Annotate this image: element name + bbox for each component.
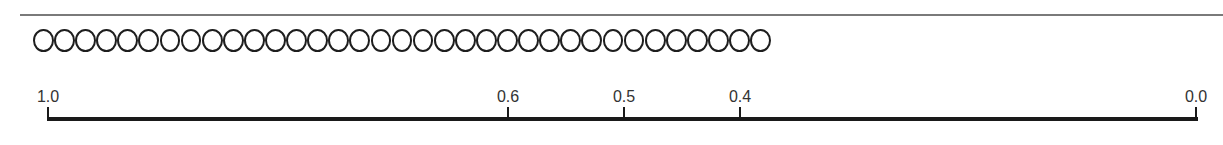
circle-glyph: [729, 29, 750, 52]
circle-glyph: [96, 29, 117, 52]
circle-glyph: [434, 29, 455, 52]
circle-glyph: [581, 29, 602, 52]
circle-glyph: [286, 29, 307, 52]
circle-glyph: [708, 29, 729, 52]
circle-glyph: [560, 29, 581, 52]
circle-glyph: [392, 29, 413, 52]
circle-glyph: [181, 29, 202, 52]
circle-glyph: [624, 29, 645, 52]
tick-mark-1-0: [47, 107, 49, 119]
circle-row: [33, 29, 771, 57]
circle-glyph: [603, 29, 624, 52]
circle-glyph: [750, 29, 771, 52]
circle-glyph: [518, 29, 539, 52]
circle-glyph: [223, 29, 244, 52]
circle-glyph: [497, 29, 518, 52]
circle-glyph: [476, 29, 497, 52]
tick-mark-0-4: [739, 107, 741, 119]
circle-glyph: [455, 29, 476, 52]
circle-glyph: [202, 29, 223, 52]
tick-mark-0-6: [507, 107, 509, 119]
circle-glyph: [413, 29, 434, 52]
circle-glyph: [54, 29, 75, 52]
tick-mark-0-5: [623, 107, 625, 119]
tick-label-0-0: 0.0: [1185, 88, 1207, 106]
tick-label-0-4: 0.4: [729, 88, 751, 106]
circle-glyph: [539, 29, 560, 52]
tick-label-1-0: 1.0: [37, 88, 59, 106]
circle-glyph: [75, 29, 96, 52]
circle-glyph: [687, 29, 708, 52]
tick-label-0-6: 0.6: [497, 88, 519, 106]
circle-glyph: [265, 29, 286, 52]
circle-glyph: [307, 29, 328, 52]
circle-glyph: [349, 29, 370, 52]
circle-glyph: [645, 29, 666, 52]
circle-glyph: [371, 29, 392, 52]
circle-glyph: [328, 29, 349, 52]
tick-label-0-5: 0.5: [613, 88, 635, 106]
circle-glyph: [33, 29, 54, 52]
circle-glyph: [666, 29, 687, 52]
circle-glyph: [117, 29, 138, 52]
circle-glyph: [138, 29, 159, 52]
circle-glyph: [244, 29, 265, 52]
tick-mark-0-0: [1195, 107, 1197, 119]
top-rule: [20, 14, 1223, 16]
circle-glyph: [160, 29, 181, 52]
